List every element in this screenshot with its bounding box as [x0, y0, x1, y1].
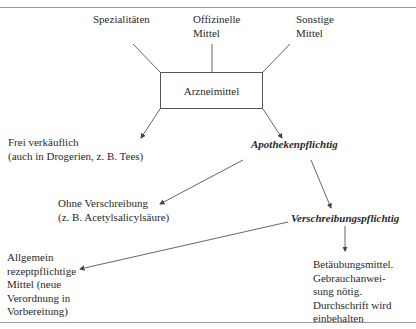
source-offizinelle-line1: Offizinelle: [193, 13, 240, 27]
node-ohne-verschreibung: Ohne Verschreibung (z. B. Acetylsalicyls…: [58, 197, 169, 224]
btm-line4: Durchschrift wird: [313, 299, 393, 313]
btm-line5: einbehalten: [313, 312, 393, 326]
rx-line5: Vorbereitung): [7, 305, 76, 319]
rx-line1: Allgemein: [7, 251, 76, 265]
source-spezialitaeten: Spezialitäten: [93, 13, 150, 27]
center-box-arzneimittel: Arzneimittel: [160, 72, 263, 109]
btm-line3: sung nötig.: [313, 285, 393, 299]
source-offizinelle-line2: Mittel: [193, 27, 240, 41]
ohne-line2: (z. B. Acetylsalicylsäure): [58, 211, 169, 225]
source-sonstige-line2: Mittel: [296, 27, 334, 41]
ohne-line1: Ohne Verschreibung: [58, 197, 169, 211]
btm-line2: Gebrauchanwei-: [313, 272, 393, 286]
node-allgemein-rezeptpflichtig: Allgemein rezeptpflichtige Mittel (neue …: [7, 251, 76, 319]
rx-line2: rezeptpflichtige: [7, 265, 76, 279]
node-verschreibungspflichtig: Verschreibungspflichtig: [291, 212, 399, 226]
node-apothekenpflichtig: Apothekenpflichtig: [251, 138, 338, 152]
center-label: Arzneimittel: [184, 85, 240, 97]
btm-line1: Betäubungsmittel.: [313, 258, 393, 272]
source-sonstige-line1: Sonstige: [296, 13, 334, 27]
rx-line3: Mittel (neue: [7, 278, 76, 292]
node-betaeubungsmittel: Betäubungsmittel. Gebrauchanwei- sung nö…: [313, 258, 393, 326]
frei-line1: Frei verkäuflich: [8, 136, 143, 150]
frei-line2: (auch in Drogerien, z. B. Tees): [8, 150, 143, 164]
source-sonstige-mittel: Sonstige Mittel: [296, 13, 334, 40]
rx-line4: Verordnung in: [7, 292, 76, 306]
source-offizinelle-mittel: Offizinelle Mittel: [193, 13, 240, 40]
node-frei-verkaeuflich: Frei verkäuflich (auch in Drogerien, z. …: [8, 136, 143, 163]
